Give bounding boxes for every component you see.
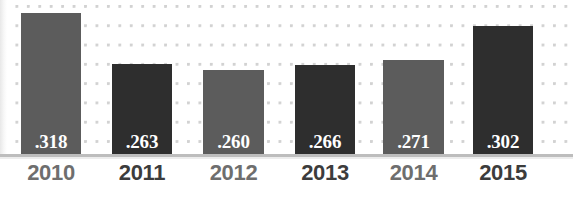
bar-value-label: .260 [203, 132, 264, 151]
bar-value-label: .302 [473, 132, 533, 151]
year-label-2010: 2010 [21, 162, 81, 184]
year-label-2014: 2014 [383, 162, 444, 184]
bar-2013: .266 [295, 65, 355, 155]
bar-2015: .302 [473, 26, 533, 155]
x-axis-baseline-shadow [0, 157, 573, 159]
bar-2010: .318 [21, 13, 81, 155]
bar-value-label: .271 [383, 132, 444, 151]
bar-value-label: .266 [295, 132, 355, 151]
year-label-2013: 2013 [295, 162, 355, 184]
year-label-2011: 2011 [112, 162, 172, 184]
bar-2011: .263 [112, 64, 172, 155]
bar-value-label: .263 [112, 132, 172, 151]
bar-2014: .271 [383, 60, 444, 155]
year-label-2015: 2015 [473, 162, 533, 184]
bar-2012: .260 [203, 70, 264, 155]
year-label-2012: 2012 [203, 162, 264, 184]
page-edge-shading [0, 0, 7, 158]
bar-chart: .318.263.260.266.271.302 201020112012201… [0, 0, 573, 202]
bar-value-label: .318 [21, 132, 81, 151]
